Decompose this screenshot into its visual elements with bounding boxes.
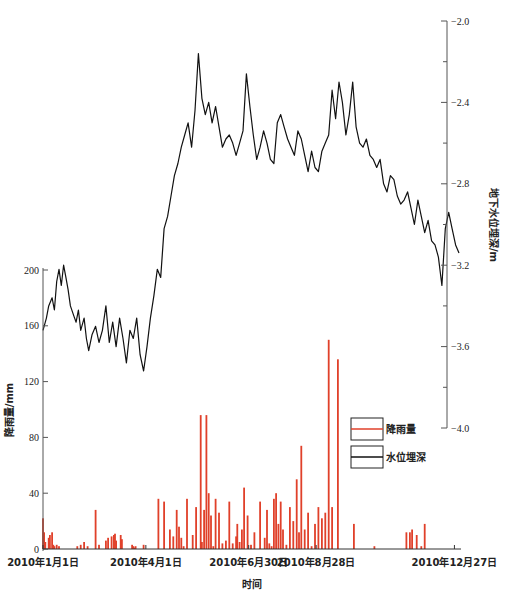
- rainfall-bar: [289, 507, 291, 549]
- rainfall-bar: [250, 545, 252, 549]
- rainfall-bar: [83, 542, 85, 549]
- rainfall-bar: [115, 541, 117, 549]
- rainfall-bar: [275, 493, 277, 549]
- rainfall-bar: [416, 535, 418, 549]
- rainfall-bar: [406, 532, 408, 549]
- rainfall-bar: [121, 539, 123, 549]
- left-axis: 04080120160200 降雨量/mm: [3, 265, 48, 555]
- rainfall-bar: [228, 502, 230, 549]
- left-tick-label: 200: [24, 265, 39, 276]
- rainfall-bar: [158, 499, 160, 549]
- rainfall-bar: [169, 530, 171, 550]
- right-tick-label: −2.4: [451, 97, 469, 108]
- rainfall-bar: [259, 502, 261, 549]
- rainfall-bar: [56, 545, 58, 549]
- rainfall-bar: [328, 340, 330, 549]
- legend: 降雨量 水位埋深: [351, 418, 426, 468]
- left-tick-label: 0: [34, 544, 39, 555]
- rainfall-bar: [210, 516, 212, 550]
- rainfall-bar: [105, 541, 107, 549]
- left-axis-label: 降雨量/mm: [3, 383, 15, 438]
- rainfall-bar: [321, 518, 323, 549]
- rainfall-bar: [178, 527, 180, 549]
- rainfall-bar: [203, 510, 205, 549]
- rainfall-bar: [337, 359, 339, 549]
- rainfall-bar: [241, 530, 243, 550]
- groundwater-path: [43, 54, 459, 371]
- rainfall-bar: [208, 493, 210, 549]
- rainfall-bar: [172, 536, 174, 549]
- rainfall-bar: [192, 535, 194, 549]
- rainfall-bar: [254, 532, 256, 549]
- rainfall-bar: [300, 446, 302, 549]
- rainfall-bar: [424, 524, 426, 549]
- rainfall-bar: [353, 524, 355, 549]
- legend-item-groundwater: 水位埋深: [351, 446, 426, 468]
- right-axis: −2.0−2.4−2.8−3.2−3.6−4.0 地下水位埋深/m: [441, 16, 500, 434]
- rainfall-bar: [239, 542, 241, 549]
- rainfall-bar: [282, 530, 284, 550]
- rainfall-bar: [218, 513, 220, 549]
- rainfall-bar: [286, 545, 288, 549]
- x-tick-label: 2010年8月28日: [277, 556, 356, 568]
- rainfall-bar: [280, 502, 282, 549]
- groundwater-line: [43, 54, 459, 371]
- rainfall-bar: [324, 513, 326, 549]
- right-tick-label: −4.0: [451, 423, 469, 434]
- rainfall-bar: [292, 521, 294, 549]
- rainfall-bar: [44, 542, 46, 549]
- rainfall-bar: [278, 524, 280, 549]
- rainfall-bar: [95, 510, 97, 549]
- x-axis: 2010年1月1日2010年4月1日2010年6月30日2010年8月28日20…: [7, 545, 497, 590]
- rainfall-bar: [232, 543, 234, 549]
- rainfall-bar: [247, 516, 249, 550]
- chart: 04080120160200 降雨量/mm −2.0−2.4−2.8−3.2−3…: [0, 0, 505, 594]
- rainfall-bar: [163, 502, 165, 549]
- rainfall-bar: [143, 545, 145, 549]
- rainfall-bar: [222, 543, 224, 549]
- rainfall-bar: [225, 541, 227, 549]
- rainfall-bars: [42, 340, 425, 549]
- rainfall-bar: [314, 524, 316, 549]
- right-tick-label: −3.2: [451, 260, 469, 271]
- rainfall-bar: [107, 538, 109, 549]
- rainfall-bar: [236, 524, 238, 549]
- rainfall-bar: [318, 507, 320, 549]
- rainfall-bar: [411, 530, 413, 550]
- left-tick-label: 40: [29, 488, 39, 499]
- rainfall-bar: [298, 532, 300, 549]
- x-tick-label: 2010年4月1日: [110, 556, 182, 568]
- rainfall-bar: [264, 538, 266, 549]
- x-tick-label: 2010年1月1日: [7, 556, 79, 568]
- legend-item-rainfall: 降雨量: [351, 418, 416, 440]
- rainfall-bar: [304, 530, 306, 550]
- rainfall-bar: [307, 513, 309, 549]
- left-tick-label: 120: [24, 376, 39, 387]
- rainfall-bar: [296, 479, 298, 549]
- rainfall-bar: [176, 510, 178, 549]
- x-tick-label: 2010年12月27日: [412, 556, 498, 568]
- left-tick-label: 160: [24, 320, 39, 331]
- rainfall-bar: [49, 535, 51, 549]
- rainfall-bar: [186, 499, 188, 549]
- rainfall-bar: [268, 543, 270, 549]
- right-axis-label: 地下水位埋深/m: [488, 188, 500, 262]
- x-axis-label: 时间: [242, 578, 262, 590]
- rainfall-bar: [409, 532, 411, 549]
- right-tick-label: −2.0: [451, 16, 469, 27]
- right-tick-label: −3.6: [451, 341, 469, 352]
- right-tick-label: −2.8: [451, 178, 469, 189]
- rainfall-bar: [243, 488, 245, 549]
- legend-label-groundwater: 水位埋深: [385, 451, 426, 463]
- rainfall-bar: [111, 536, 113, 549]
- rainfall-bar: [273, 499, 275, 549]
- rainfall-bar: [98, 545, 100, 549]
- rainfall-bar: [331, 507, 333, 549]
- rainfall-bar: [266, 510, 268, 549]
- rainfall-bar: [200, 415, 202, 549]
- rainfall-bar: [195, 507, 197, 549]
- left-tick-label: 80: [29, 432, 39, 443]
- rainfall-bar: [206, 415, 208, 549]
- rainfall-bar: [180, 538, 182, 549]
- rainfall-bar: [201, 542, 203, 549]
